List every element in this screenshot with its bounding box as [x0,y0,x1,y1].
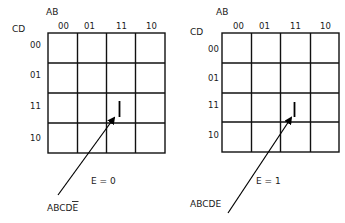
row-header: 01 [208,73,219,83]
minterm-annotation: ABCDE [190,199,221,209]
col-var-label: AB [46,7,58,17]
caption: E = 1 [256,176,281,186]
col-header: 00 [233,21,244,31]
col-header: 11 [290,21,301,31]
row-header: 10 [208,130,219,140]
col-header: 10 [320,21,331,31]
col-header: 01 [84,21,95,31]
row-header: 11 [30,101,41,111]
row-header: 10 [30,133,41,143]
minterm-annotation: ABCDE [47,203,78,213]
kmap-e0: AB CD 00 01 11 10 00 01 11 10 E = 0 ABCD… [12,7,165,213]
row-header: 00 [30,40,41,50]
row-var-label: CD [190,27,203,37]
caption: E = 0 [91,176,116,186]
row-header: 11 [208,100,219,110]
kmap-grid [48,33,165,153]
col-var-label: AB [216,7,228,17]
row-header: 00 [208,44,219,54]
row-var-label: CD [12,24,25,34]
karnaugh-diagram: AB CD 00 01 11 10 00 01 11 10 E = 0 ABCD… [0,0,345,223]
col-header: 11 [116,21,127,31]
col-header: 00 [58,21,69,31]
col-header: 10 [146,21,157,31]
col-header: 01 [259,21,270,31]
row-header: 01 [30,70,41,80]
pointer-arrow [228,118,291,213]
kmap-e1: AB CD 00 01 11 10 00 01 11 10 E = 1 ABCD… [190,7,339,213]
